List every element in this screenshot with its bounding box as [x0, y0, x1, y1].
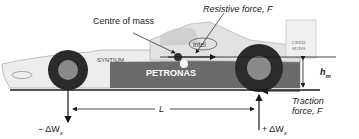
- centre-of-mass-label: Centre of mass: [93, 16, 154, 26]
- svg-text:PETRONAS: PETRONAS: [146, 68, 196, 78]
- f1-car: PETRONAS intel SYNTIUM CRED SUISS: [2, 20, 316, 92]
- plus-dw-label: + ΔWx: [262, 124, 287, 138]
- svg-text:SUISS: SUISS: [292, 46, 306, 51]
- minus-dw-label: − ΔWx: [38, 124, 63, 138]
- svg-text:CRED: CRED: [292, 40, 306, 45]
- resistive-force-label: Resistive force, F: [203, 4, 273, 14]
- svg-text:intel: intel: [193, 41, 206, 48]
- traction-force-label-2: force, F: [292, 106, 323, 116]
- traction-force-label-1: Traction: [292, 96, 324, 106]
- hm-label: hm: [320, 67, 331, 81]
- car-rear-wing: [286, 20, 316, 58]
- svg-text:SYNTIUM: SYNTIUM: [97, 57, 124, 63]
- wheelbase-label: L: [159, 104, 164, 114]
- diagram-canvas: PETRONAS intel SYNTIUM CRED SUISS: [0, 0, 359, 139]
